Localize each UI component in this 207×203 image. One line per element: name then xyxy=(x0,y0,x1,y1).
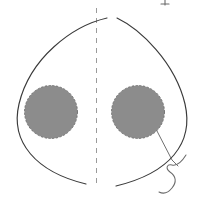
right-lesion-circle xyxy=(112,86,165,139)
figure-container xyxy=(0,0,207,203)
leader-line xyxy=(157,131,178,166)
diagram-canvas xyxy=(0,0,207,203)
left-lesion-circle xyxy=(25,86,78,139)
